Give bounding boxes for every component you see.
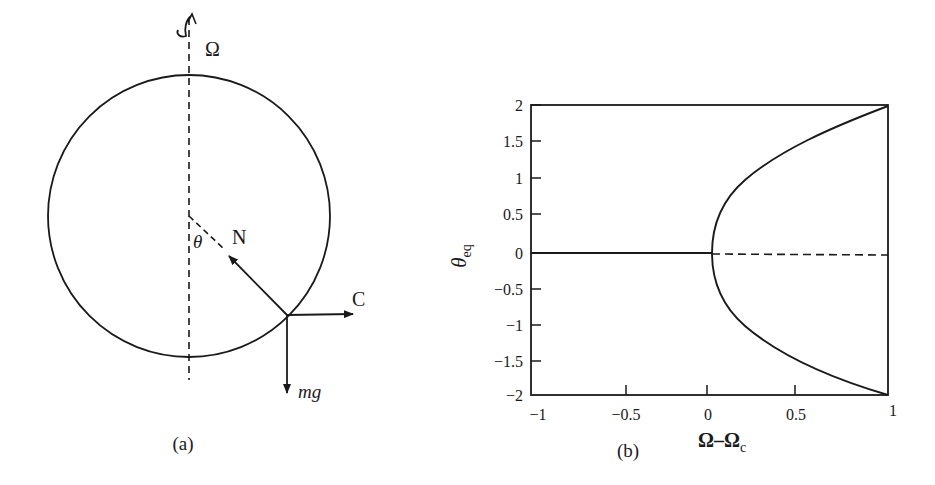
- x-axis-label: Ω–Ωc: [698, 429, 746, 455]
- caption-b: (b): [617, 440, 639, 462]
- y-tick-label: 2: [515, 97, 523, 114]
- caption-a: (a): [172, 433, 193, 455]
- y-tick-labels: 2 1.5 1 0.5 0 −0.5 −1 −1.5 −2: [494, 97, 523, 404]
- y-tick-label: −1: [506, 317, 523, 334]
- centrifugal-force-arrow: [287, 314, 353, 315]
- x-tick-label: −1: [529, 406, 546, 423]
- x-tick-labels: −1 −0.5 0 0.5 1: [529, 402, 897, 423]
- figure-canvas: Ω θ N C mg (a) 2 1.5 1: [0, 0, 935, 485]
- ylabel-main: θ: [447, 257, 471, 267]
- y-tick-label: 0.5: [503, 206, 523, 223]
- x-tick-label: 0.5: [786, 406, 806, 423]
- x-tick-label: 0: [704, 406, 712, 423]
- xlabel-sub: c: [740, 440, 746, 455]
- x-tick-label: −0.5: [611, 406, 640, 423]
- y-tick-label: −2: [506, 387, 523, 404]
- upper-branch-curve: [712, 106, 888, 253]
- y-tick-label: 1: [515, 170, 523, 187]
- gravity-label: mg: [298, 381, 321, 402]
- normal-force-label: N: [232, 226, 246, 248]
- panel-a: Ω θ N C mg (a): [48, 14, 365, 455]
- y-axis-label: θeq: [447, 244, 474, 268]
- y-tick-label: −1.5: [494, 353, 523, 370]
- omega-label: Ω: [205, 38, 220, 60]
- x-tick-label: 1: [889, 402, 897, 419]
- lower-branch-curve: [712, 253, 888, 395]
- normal-force-arrow: [229, 256, 287, 315]
- y-tick-label: 0: [515, 245, 523, 262]
- y-axis-ticks: [531, 105, 541, 361]
- svg-text:θeq: θeq: [447, 244, 474, 268]
- ylabel-sub: eq: [459, 244, 474, 257]
- xlabel-main: Ω–Ω: [698, 429, 740, 451]
- plot-frame: [531, 105, 888, 395]
- panel-b-chart: 2 1.5 1 0.5 0 −0.5 −1 −1.5 −2 −1 −0.5 0 …: [447, 97, 897, 462]
- y-tick-label: −0.5: [494, 281, 523, 298]
- centrifugal-label: C: [352, 288, 365, 310]
- y-tick-label: 1.5: [503, 133, 523, 150]
- unstable-zero-branch: [712, 254, 888, 255]
- theta-label: θ: [193, 231, 202, 252]
- x-axis-ticks: [626, 385, 795, 395]
